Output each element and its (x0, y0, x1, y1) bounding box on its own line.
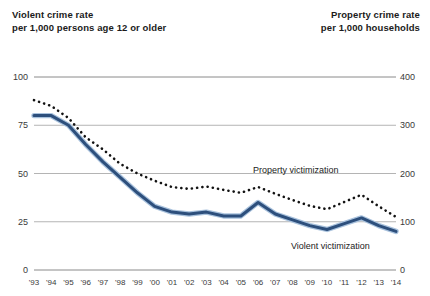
chart-root: Violent crime rate per 1,000 persons age… (0, 0, 430, 296)
y-axis-right-tick-label: 400 (400, 73, 428, 82)
y-axis-left-tick-label: 25 (4, 218, 28, 227)
y-axis-right-tick-label: 200 (400, 170, 428, 179)
property-victimization-line (34, 100, 396, 217)
y-axis-left-tick-label: 75 (4, 121, 28, 130)
chart-plot-area (0, 0, 430, 296)
y-axis-left-tick-label: 100 (4, 73, 28, 82)
y-axis-right-tick-label: 0 (400, 266, 428, 275)
series-label-violent: Violent victimization (291, 241, 370, 251)
series-label-property: Property victimization (253, 165, 339, 175)
y-axis-right-tick-label: 300 (400, 121, 428, 130)
y-axis-left-tick-label: 0 (4, 266, 28, 275)
y-axis-right-tick-label: 100 (400, 218, 428, 227)
y-axis-left-tick-label: 50 (4, 170, 28, 179)
x-axis-tick-label: '14 (386, 279, 406, 287)
